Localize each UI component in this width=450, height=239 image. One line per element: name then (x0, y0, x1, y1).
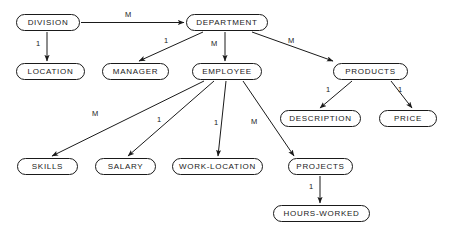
edge-label-products-description: 1 (326, 86, 330, 94)
node-skills[interactable]: SKILLS (17, 158, 78, 175)
edge-employee-salary (128, 81, 214, 156)
node-manager[interactable]: MANAGER (102, 63, 169, 80)
er-diagram-canvas: DIVISION DEPARTMENT LOCATION MANAGER EMP… (0, 0, 450, 239)
edge-label-employee-work-location: 1 (214, 119, 218, 127)
node-label: DESCRIPTION (289, 115, 351, 123)
node-work-location[interactable]: WORK-LOCATION (172, 158, 263, 175)
edge-employee-skills (52, 81, 204, 156)
node-price[interactable]: PRICE (379, 110, 437, 127)
node-label: WORK-LOCATION (179, 163, 256, 171)
node-label: PROJECTS (296, 163, 344, 171)
edge-label-division-location: 1 (36, 40, 40, 48)
edge-label-department-employee: M (211, 40, 217, 48)
node-description[interactable]: DESCRIPTION (280, 110, 361, 127)
edge-label-department-products: M (288, 37, 294, 45)
node-label: DIVISION (28, 19, 69, 27)
node-label: EMPLOYEE (202, 68, 252, 76)
node-label: MANAGER (113, 68, 158, 76)
edge-label-employee-skills: M (92, 110, 98, 118)
node-label: PRODUCTS (345, 68, 396, 76)
node-department[interactable]: DEPARTMENT (186, 14, 268, 31)
edge-label-division-department: M (125, 11, 131, 19)
node-location[interactable]: LOCATION (16, 63, 85, 80)
node-label: PRICE (394, 115, 422, 123)
edge-department-manager (139, 32, 203, 61)
node-label: SKILLS (32, 163, 63, 171)
node-hours-worked[interactable]: HOURS-WORKED (273, 205, 370, 222)
node-salary[interactable]: SALARY (95, 158, 156, 175)
edge-employee-work-location (218, 81, 226, 156)
edge-products-description (320, 81, 352, 108)
node-products[interactable]: PRODUCTS (333, 63, 408, 80)
node-label: HOURS-WORKED (284, 210, 360, 218)
node-division[interactable]: DIVISION (16, 14, 80, 31)
node-label: SALARY (108, 163, 144, 171)
node-label: DEPARTMENT (196, 19, 257, 27)
node-employee[interactable]: EMPLOYEE (192, 63, 262, 80)
edge-label-products-price: 1 (398, 86, 402, 94)
edge-label-projects-hours-worked: 1 (309, 183, 313, 191)
edge-label-department-manager: 1 (164, 37, 168, 45)
node-label: LOCATION (28, 68, 74, 76)
edge-label-employee-salary: 1 (157, 116, 161, 124)
node-projects[interactable]: PROJECTS (288, 158, 353, 175)
edge-label-employee-projects: M (251, 118, 257, 126)
